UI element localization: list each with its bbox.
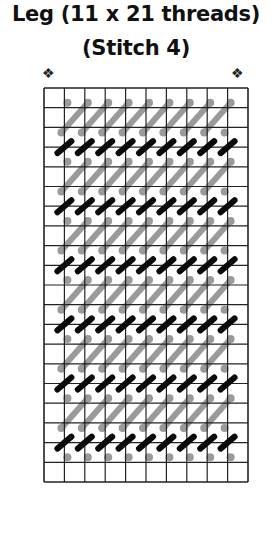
stitch-grid-diagram	[0, 0, 272, 538]
